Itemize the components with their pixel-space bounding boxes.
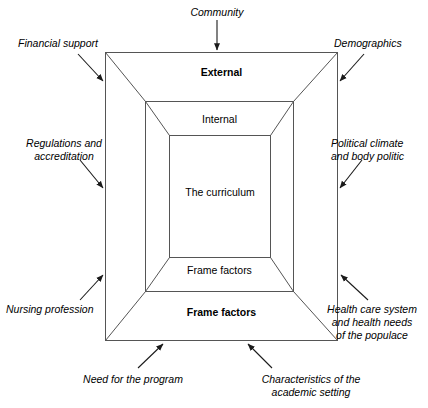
arrow-financial-support: [78, 54, 103, 81]
external-label-regulations: Regulations and accreditation: [8, 137, 120, 163]
external-label-health-care-system: Health care system and health needs of t…: [316, 303, 428, 342]
arrow-political-climate: [340, 160, 362, 188]
box-label-external: External: [105, 66, 338, 79]
external-label-financial-support: Financial support: [18, 37, 138, 50]
box-label-curriculum: The curriculum: [169, 186, 271, 199]
arrow-regulations: [80, 160, 103, 188]
external-label-community: Community: [167, 6, 267, 19]
arrow-academic-setting: [248, 344, 272, 368]
external-label-need-for-program: Need for the program: [68, 373, 198, 386]
external-label-demographics: Demographics: [334, 37, 428, 50]
arrow-health-care-system: [341, 275, 368, 300]
external-label-academic-setting: Characteristics of the academic setting: [247, 373, 375, 399]
box-label-internal: Internal: [145, 113, 294, 126]
arrow-demographics: [340, 54, 364, 81]
arrow-nursing-profession: [80, 275, 103, 300]
arrow-need-for-program: [138, 344, 163, 368]
external-label-political-climate: Political climate and body politic: [331, 137, 428, 163]
box-label-frame-factors-inner: Frame factors: [145, 264, 294, 277]
external-label-nursing-profession: Nursing profession: [6, 303, 121, 316]
curriculum-frame-diagram: External Internal The curriculum Frame f…: [0, 0, 428, 408]
box-label-frame-factors-outer: Frame factors: [105, 306, 338, 319]
diagram-canvas: [0, 0, 428, 408]
